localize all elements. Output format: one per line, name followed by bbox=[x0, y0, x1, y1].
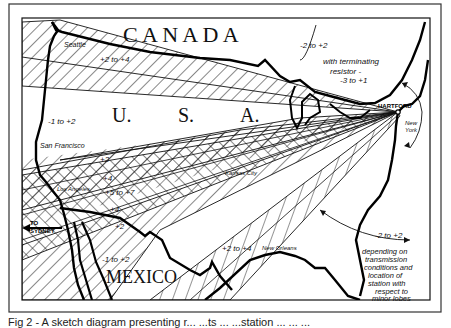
label-terminating-1: with terminating bbox=[323, 57, 380, 66]
label-terminating-2: resistor - bbox=[330, 67, 361, 76]
label-terminating-3: -3 to +1 bbox=[340, 76, 367, 85]
label-north-band: +2 to +4 bbox=[100, 55, 130, 64]
city-los-angeles: Los Angeles bbox=[57, 186, 90, 192]
label-main-plus5to7: +5 to +7 bbox=[105, 188, 135, 197]
label-north-arc: -2 to +2 bbox=[300, 41, 328, 50]
label-to-sydney-2: SYDNEY bbox=[30, 228, 55, 234]
label-main-plus2-top: +2 bbox=[100, 155, 110, 164]
country-usa-u: U. bbox=[112, 104, 131, 126]
label-mexico-gap: -1 to +2 bbox=[102, 255, 130, 264]
label-main-plus4-a: +4 bbox=[103, 174, 113, 183]
label-to-sydney-1: TO bbox=[30, 220, 39, 226]
label-south-arc: -2 to +2 bbox=[375, 231, 403, 240]
city-kansas-city: Kansas City bbox=[225, 170, 258, 176]
hartford-station-marker bbox=[396, 110, 400, 114]
city-new-york-1: New bbox=[405, 120, 418, 126]
city-new-orleans: New Orleans bbox=[262, 245, 297, 251]
city-hartford: HARTFORD bbox=[378, 103, 412, 109]
sketch-diagram: C A N A D A U. S. A. MEXICO Seattle San … bbox=[0, 0, 451, 328]
figure-caption: Fig 2 - A sketch diagram presenting r...… bbox=[8, 316, 310, 328]
country-usa-s: S. bbox=[178, 104, 194, 126]
label-main-plus4-b: +4 bbox=[110, 205, 120, 214]
country-usa-a: A. bbox=[240, 104, 259, 126]
city-seattle: Seattle bbox=[64, 41, 86, 48]
label-depending-7: minor lobes bbox=[372, 294, 411, 303]
country-canada: C A N A D A bbox=[123, 22, 239, 47]
city-san-francisco: San Francisco bbox=[40, 142, 85, 149]
label-north-gap: -1 to +2 bbox=[48, 117, 76, 126]
country-mexico: MEXICO bbox=[106, 267, 177, 287]
city-new-york-2: York bbox=[405, 127, 418, 133]
label-south-band: +2 to +4 bbox=[222, 244, 252, 253]
label-main-plus2-bottom: +2 bbox=[115, 222, 125, 231]
